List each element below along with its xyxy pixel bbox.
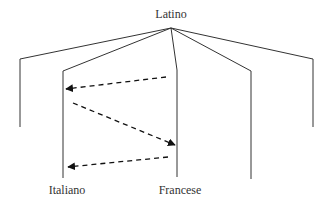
branch-line-b4	[171, 28, 251, 179]
leaf-label-francese: Francese	[159, 183, 202, 198]
branch-line-b2	[63, 28, 171, 178]
influence-arrow-2	[73, 103, 175, 145]
branch-line-b3	[171, 28, 177, 177]
root-label-latino: Latino	[155, 7, 186, 22]
tree-lines	[0, 0, 333, 206]
language-tree-diagram: Latino Italiano Francese	[0, 0, 333, 206]
influence-arrow-3	[68, 157, 168, 167]
influence-arrow-1	[66, 77, 166, 89]
branch-line-b5	[171, 28, 313, 127]
leaf-label-italiano: Italiano	[49, 183, 86, 198]
branch-line-b1	[20, 28, 171, 127]
